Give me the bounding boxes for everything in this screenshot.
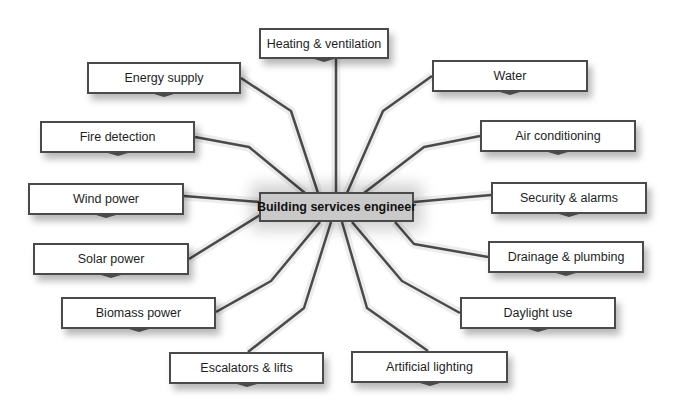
topic-box-solar: Solar power (33, 243, 189, 275)
topic-label: Security & alarms (520, 191, 618, 205)
topic-label: Heating & ventilation (267, 37, 382, 51)
topic-label: Drainage & plumbing (508, 250, 625, 264)
central-topic-label: Building services engineer (257, 200, 416, 214)
topic-box-heating: Heating & ventilation (259, 28, 389, 59)
topic-label: Water (494, 69, 527, 83)
topic-label: Fire detection (80, 130, 156, 144)
topic-box-fire: Fire detection (40, 121, 195, 153)
topic-label: Escalators & lifts (200, 361, 292, 375)
topic-label: Air conditioning (515, 129, 600, 143)
connector-solar (189, 215, 260, 259)
topic-box-escalators: Escalators & lifts (169, 352, 324, 384)
topic-box-water: Water (432, 60, 588, 92)
topic-label: Biomass power (96, 306, 181, 320)
topic-label: Artificial lighting (386, 360, 473, 374)
topic-label: Daylight use (504, 306, 573, 320)
topic-box-lighting: Artificial lighting (351, 351, 508, 383)
topic-box-wind: Wind power (28, 183, 184, 215)
topic-box-aircon: Air conditioning (480, 120, 636, 152)
topic-box-daylight: Daylight use (460, 297, 616, 329)
topic-box-biomass: Biomass power (61, 297, 216, 329)
topic-label: Wind power (73, 192, 139, 206)
central-topic-box: Building services engineer (259, 192, 414, 222)
topic-box-drainage: Drainage & plumbing (488, 241, 644, 273)
topic-box-energy: Energy supply (87, 62, 241, 94)
mind-map-diagram: Heating & ventilationEnergy supplyWaterF… (0, 0, 673, 408)
topic-box-security: Security & alarms (491, 182, 647, 214)
topic-label: Energy supply (124, 71, 203, 85)
topic-label: Solar power (78, 252, 145, 266)
